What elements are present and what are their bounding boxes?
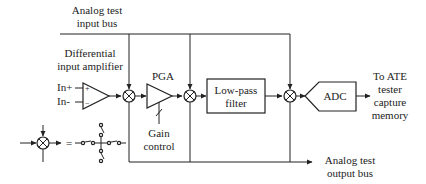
- input-bus-label-1: Analog test: [72, 4, 122, 16]
- mux3-node-icon: [284, 90, 296, 102]
- output-bus-label-2: output bus: [327, 167, 373, 179]
- in-minus-label: In-: [57, 95, 70, 107]
- ate-label-1: To ATE: [373, 70, 407, 82]
- mux1-node-icon: [123, 90, 135, 102]
- ate-label-2: tester: [378, 83, 402, 95]
- mux2-node-icon: [184, 90, 196, 102]
- legend-mux-node-icon: [20, 125, 61, 162]
- gain-label-2: control: [143, 140, 174, 152]
- diff-amp-label-2: input amplifier: [57, 60, 123, 72]
- adc-label: ADC: [323, 90, 346, 102]
- diff-amp-label-1: Differential: [64, 47, 115, 59]
- legend-switch-network-icon: [75, 123, 126, 162]
- output-bus-label-1: Analog test: [325, 154, 375, 166]
- lpf-label-1: Low-pass: [215, 84, 258, 96]
- diff-amp-minus: −: [85, 99, 90, 108]
- diff-amp-plus: +: [85, 84, 90, 93]
- legend-equals: =: [66, 137, 72, 149]
- in-plus-label: In+: [57, 81, 72, 93]
- ate-label-3: capture: [374, 96, 406, 108]
- input-bus-label-2: input bus: [77, 17, 118, 29]
- analog-test-bus-diagram: Analog test input bus Differential input…: [0, 0, 426, 184]
- ate-label-4: memory: [372, 109, 409, 121]
- gain-label-1: Gain: [148, 127, 170, 139]
- pga-label: PGA: [152, 70, 174, 82]
- lpf-label-2: filter: [225, 97, 247, 109]
